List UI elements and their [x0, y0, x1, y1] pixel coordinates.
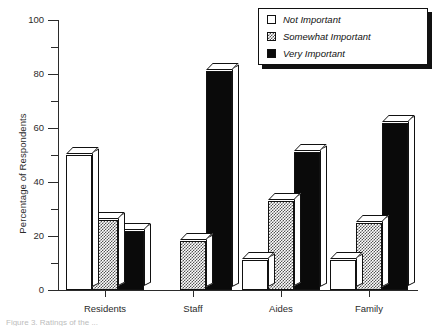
bar-side-face [144, 224, 151, 287]
legend-item[interactable]: Somewhat Important [267, 28, 371, 44]
y-axis-tick-label: 0 [18, 284, 44, 295]
x-axis-line [58, 290, 418, 291]
y-axis-tick [48, 128, 58, 129]
y-axis-tick [48, 182, 58, 183]
bar-side-face [268, 253, 275, 286]
bar-front-face [330, 260, 356, 290]
bar [242, 260, 268, 290]
chart-legend[interactable]: Not Important Somewhat Important Very Im… [258, 8, 428, 65]
legend-item[interactable]: Very Important [267, 45, 345, 61]
bar [66, 155, 92, 290]
x-axis-tick [281, 290, 282, 297]
legend-item-label: Somewhat Important [283, 31, 371, 42]
legend-item-label: Very Important [283, 48, 345, 59]
bar-side-face [232, 64, 239, 286]
y-axis-line [58, 20, 59, 291]
y-axis-minor-tick [51, 155, 58, 156]
bar [330, 260, 356, 290]
y-axis-minor-tick [51, 209, 58, 210]
y-axis-tick-label: 40 [18, 176, 44, 187]
y-axis-minor-tick [51, 263, 58, 264]
bar-side-face [408, 116, 415, 287]
y-axis-minor-tick [51, 47, 58, 48]
bar-side-face [294, 194, 301, 287]
bar-front-face [180, 241, 206, 290]
legend-item-label: Not Important [283, 14, 341, 25]
bar-front-face [66, 155, 92, 290]
bar-side-face [118, 213, 125, 287]
y-axis-tick-label: 100 [18, 14, 44, 25]
x-axis-category-label: Family [309, 303, 429, 314]
y-axis-minor-tick [51, 101, 58, 102]
y-axis-tick-label: 80 [18, 68, 44, 79]
bar-side-face [356, 253, 363, 286]
bar-side-face [206, 234, 213, 286]
bar-side-face [92, 148, 99, 287]
x-axis-tick [105, 290, 106, 297]
y-axis-tick-label: 20 [18, 230, 44, 241]
open-square-swatch [267, 15, 276, 24]
y-axis-tick [48, 74, 58, 75]
y-axis-tick [48, 236, 58, 237]
bar-chart: Percentage of Respondents 020406080100 R… [0, 0, 437, 326]
x-axis-tick [193, 290, 194, 297]
checkered-square-swatch [267, 32, 276, 41]
y-axis-title: Percentage of Respondents [17, 74, 28, 274]
filled-square-swatch [267, 49, 276, 58]
bar-side-face [320, 145, 327, 286]
bar-side-face [382, 215, 389, 286]
x-axis-tick [369, 290, 370, 297]
bar [180, 241, 206, 290]
bar-front-face [242, 260, 268, 290]
figure-caption: Figure 3. Ratings of the ... [6, 318, 98, 326]
legend-item[interactable]: Not Important [267, 11, 341, 27]
y-axis-tick-label: 60 [18, 122, 44, 133]
y-axis-tick [48, 20, 58, 21]
y-axis-tick [48, 290, 58, 291]
